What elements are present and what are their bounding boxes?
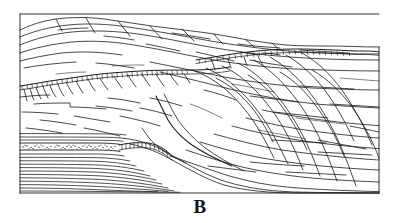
- figure-root: B: [0, 0, 400, 223]
- panel-label: B: [0, 196, 400, 218]
- cross-section-diagram: [0, 0, 400, 223]
